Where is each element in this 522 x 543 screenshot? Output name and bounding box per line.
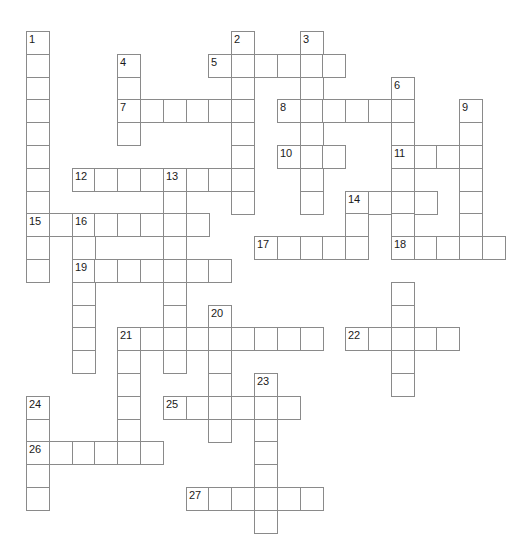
crossword-cell[interactable] <box>254 396 278 420</box>
crossword-cell[interactable] <box>459 236 483 260</box>
crossword-cell[interactable] <box>26 419 50 443</box>
crossword-cell-2[interactable]: 2 <box>231 31 255 55</box>
crossword-cell[interactable] <box>72 350 96 374</box>
crossword-cell[interactable] <box>117 122 141 146</box>
crossword-cell[interactable] <box>300 145 324 169</box>
crossword-cell[interactable] <box>49 441 73 465</box>
crossword-cell[interactable] <box>163 191 187 215</box>
crossword-cell[interactable] <box>208 419 232 443</box>
crossword-cell[interactable] <box>186 99 210 123</box>
crossword-cell[interactable] <box>72 327 96 351</box>
crossword-cell[interactable] <box>482 236 506 260</box>
crossword-cell[interactable] <box>254 54 278 78</box>
crossword-cell[interactable] <box>414 327 438 351</box>
crossword-cell[interactable] <box>391 168 415 192</box>
crossword-cell-9[interactable]: 9 <box>459 99 483 123</box>
crossword-cell[interactable] <box>231 77 255 101</box>
crossword-cell[interactable] <box>72 282 96 306</box>
crossword-cell[interactable] <box>459 191 483 215</box>
crossword-cell[interactable] <box>140 259 164 283</box>
crossword-cell[interactable] <box>391 282 415 306</box>
crossword-cell[interactable] <box>391 373 415 397</box>
crossword-cell[interactable] <box>117 419 141 443</box>
crossword-cell[interactable] <box>300 99 324 123</box>
crossword-cell[interactable] <box>163 282 187 306</box>
crossword-cell[interactable] <box>254 487 278 511</box>
crossword-cell[interactable] <box>26 259 50 283</box>
crossword-cell[interactable] <box>117 77 141 101</box>
crossword-cell-25[interactable]: 25 <box>163 396 187 420</box>
crossword-cell[interactable] <box>414 236 438 260</box>
crossword-cell[interactable] <box>72 441 96 465</box>
crossword-cell[interactable] <box>300 487 324 511</box>
crossword-cell[interactable] <box>391 122 415 146</box>
crossword-cell[interactable] <box>26 77 50 101</box>
crossword-cell[interactable] <box>322 99 346 123</box>
crossword-cell[interactable] <box>231 191 255 215</box>
crossword-cell[interactable] <box>254 419 278 443</box>
crossword-cell[interactable] <box>277 396 301 420</box>
crossword-cell[interactable] <box>117 373 141 397</box>
crossword-cell[interactable] <box>322 236 346 260</box>
crossword-cell[interactable] <box>391 213 415 237</box>
crossword-cell[interactable] <box>94 168 118 192</box>
crossword-cell[interactable] <box>391 305 415 329</box>
crossword-cell[interactable] <box>26 99 50 123</box>
crossword-cell[interactable] <box>231 327 255 351</box>
crossword-cell[interactable] <box>26 236 50 260</box>
crossword-cell[interactable] <box>322 54 346 78</box>
crossword-cell[interactable] <box>300 54 324 78</box>
crossword-cell[interactable] <box>140 327 164 351</box>
crossword-cell-13[interactable]: 13 <box>163 168 187 192</box>
crossword-cell-20[interactable]: 20 <box>208 305 232 329</box>
crossword-cell-11[interactable]: 11 <box>391 145 415 169</box>
crossword-cell[interactable] <box>117 213 141 237</box>
crossword-cell[interactable] <box>163 236 187 260</box>
crossword-cell-14[interactable]: 14 <box>345 191 369 215</box>
crossword-cell[interactable] <box>277 487 301 511</box>
crossword-cell[interactable] <box>26 191 50 215</box>
crossword-cell-10[interactable]: 10 <box>277 145 301 169</box>
crossword-cell[interactable] <box>163 213 187 237</box>
crossword-cell-23[interactable]: 23 <box>254 373 278 397</box>
crossword-cell[interactable] <box>231 145 255 169</box>
crossword-cell-21[interactable]: 21 <box>117 327 141 351</box>
crossword-cell[interactable] <box>300 77 324 101</box>
crossword-cell-19[interactable]: 19 <box>72 259 96 283</box>
crossword-cell[interactable] <box>277 327 301 351</box>
crossword-cell[interactable] <box>72 236 96 260</box>
crossword-cell[interactable] <box>140 99 164 123</box>
crossword-cell-18[interactable]: 18 <box>391 236 415 260</box>
crossword-cell[interactable] <box>163 350 187 374</box>
crossword-cell[interactable] <box>300 191 324 215</box>
crossword-cell[interactable] <box>26 168 50 192</box>
crossword-cell[interactable] <box>186 327 210 351</box>
crossword-cell[interactable] <box>300 327 324 351</box>
crossword-cell[interactable] <box>459 213 483 237</box>
crossword-cell[interactable] <box>26 122 50 146</box>
crossword-cell[interactable] <box>208 487 232 511</box>
crossword-cell[interactable] <box>368 327 392 351</box>
crossword-cell[interactable] <box>414 191 438 215</box>
crossword-cell[interactable] <box>300 122 324 146</box>
crossword-cell[interactable] <box>140 213 164 237</box>
crossword-cell-16[interactable]: 16 <box>72 213 96 237</box>
crossword-cell[interactable] <box>231 487 255 511</box>
crossword-cell[interactable] <box>231 54 255 78</box>
crossword-cell[interactable] <box>322 145 346 169</box>
crossword-cell[interactable] <box>254 327 278 351</box>
crossword-cell[interactable] <box>117 259 141 283</box>
crossword-cell[interactable] <box>277 236 301 260</box>
crossword-cell-17[interactable]: 17 <box>254 236 278 260</box>
crossword-cell[interactable] <box>254 510 278 534</box>
crossword-cell-24[interactable]: 24 <box>26 396 50 420</box>
crossword-cell[interactable] <box>368 99 392 123</box>
crossword-cell[interactable] <box>186 213 210 237</box>
crossword-cell[interactable] <box>186 168 210 192</box>
crossword-cell[interactable] <box>117 441 141 465</box>
crossword-cell[interactable] <box>163 305 187 329</box>
crossword-cell[interactable] <box>345 99 369 123</box>
crossword-cell[interactable] <box>186 396 210 420</box>
crossword-cell[interactable] <box>345 213 369 237</box>
crossword-cell[interactable] <box>208 373 232 397</box>
